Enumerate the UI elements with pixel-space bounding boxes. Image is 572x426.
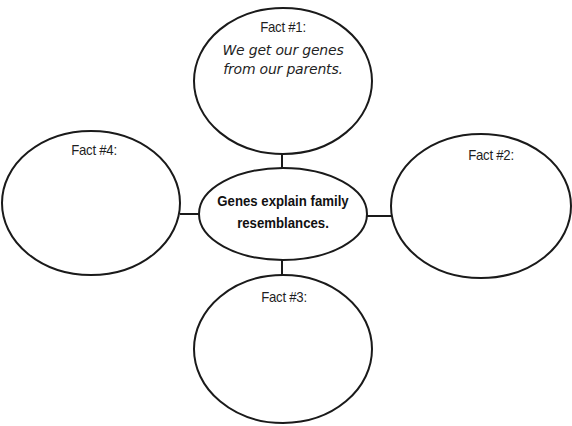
- fact-4-answer-area[interactable]: [21, 170, 161, 230]
- fact-3-answer-area[interactable]: [213, 315, 353, 375]
- fact-2-answer-area[interactable]: [411, 175, 551, 235]
- fact-1-label: Fact #1:: [239, 18, 327, 35]
- center-main-idea-line-2: resemblances.: [204, 212, 362, 234]
- fact-1-answer-line-1[interactable]: We get our genes: [203, 41, 363, 60]
- fact-2-label: Fact #2:: [447, 146, 535, 163]
- fact-1-answer-line-2[interactable]: from our parents.: [203, 60, 363, 79]
- center-main-idea-line-1: Genes explain family: [204, 190, 362, 212]
- fact-3-label: Fact #3:: [240, 288, 328, 305]
- fact-4-label: Fact #4:: [50, 141, 138, 158]
